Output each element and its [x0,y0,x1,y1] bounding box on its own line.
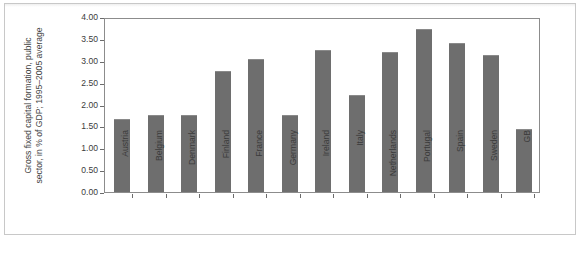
x-axis-tick-label: Portugal [422,130,433,200]
y-axis-tick-label: 1.00 [81,143,98,153]
x-axis-tick-mark [333,194,334,198]
x-axis-tick-label: Italy [355,130,366,200]
x-axis-tick-mark [199,194,200,198]
y-axis-tick-label: 0.00 [81,187,98,197]
x-axis-tick-mark [132,194,133,198]
x-axis-tick-label: Netherlands [388,130,399,200]
y-axis: 0.000.501.001.502.002.503.003.504.00 [65,18,104,193]
x-axis-tick-label: Finland [221,130,232,200]
x-axis-tick-label: Ireland [321,130,332,200]
x-axis-tick-mark [467,194,468,198]
y-axis-tick-label: 2.50 [81,78,98,88]
x-axis-tick-label: Belgium [154,130,165,200]
x-axis-tick-label: France [254,130,265,200]
y-axis-tick-label: 3.00 [81,56,98,66]
x-axis-tick-label: Sweden [489,130,500,200]
x-axis-tick-mark [501,194,502,198]
x-axis-tick-mark [534,194,535,198]
x-axis-tick-label: Germany [288,130,299,200]
y-axis-tick-label: 1.50 [81,121,98,131]
y-axis-tick-label: 3.50 [81,34,98,44]
x-axis-tick-label: Denmark [187,130,198,200]
x-axis-tick-mark [300,194,301,198]
y-axis-tick-label: 4.00 [81,12,98,22]
x-axis-tick-mark [233,194,234,198]
x-axis-tick-mark [434,194,435,198]
y-axis-tick-mark [100,193,104,194]
x-axis-tick-mark [367,194,368,198]
chart-screenshot: Gross fixed capital formation, public se… [0,0,581,255]
figure-caption: Gross fixed capital formation, public se… [4,240,576,255]
y-axis-tick-label: 0.50 [81,165,98,175]
x-axis-tick-mark [166,194,167,198]
x-axis-tick-mark [400,194,401,198]
figure-caption-marker: 2 [385,240,388,241]
x-axis-tick-mark [266,194,267,198]
y-axis-tick-label: 2.00 [81,100,98,110]
x-axis-tick-label: GB [522,130,533,200]
figure-frame: Gross fixed capital formation, public se… [4,3,576,235]
x-axis-tick-label: Spain [455,130,466,200]
x-axis-tick-label: Austria [120,130,131,200]
